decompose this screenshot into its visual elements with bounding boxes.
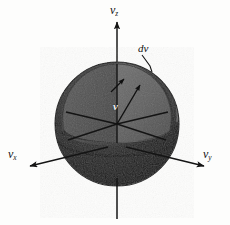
axis-label-vx: vx [8,148,17,161]
axis-label-vz-subscript: z [115,9,118,18]
axis-label-vx-subscript: x [13,153,16,162]
shell-thickness-label: dv [138,43,148,54]
axis-label-vz: vz [110,4,118,17]
axis-label-vy-subscript: y [208,153,211,162]
axis-label-vy: vy [203,148,212,161]
velocity-vector-label: v [113,101,118,112]
velocity-space-figure [0,0,230,225]
